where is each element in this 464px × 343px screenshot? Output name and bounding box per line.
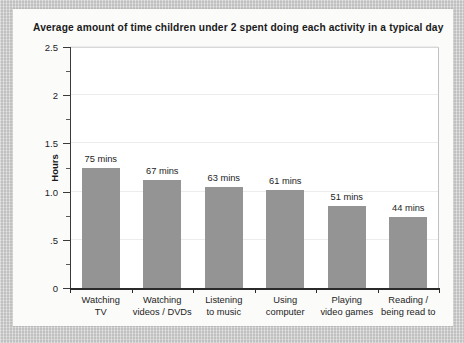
x-axis-category-label: Watchingvideos / DVDs [133, 295, 192, 318]
gridline [70, 239, 438, 240]
bar [266, 190, 304, 288]
gridline [70, 191, 438, 192]
y-axis-tick-label: 1.5 [45, 138, 58, 149]
x-axis-category-label: Usingcomputer [266, 295, 305, 318]
y-axis-tick-minor [66, 264, 70, 265]
x-axis-tick [316, 288, 317, 293]
bar [205, 187, 243, 288]
y-axis-tick-label: .5 [50, 234, 58, 245]
y-axis-tick-major [63, 240, 70, 241]
y-axis-tick-label: 2.5 [45, 42, 58, 53]
x-axis-category-label: WatchingTV [82, 295, 120, 318]
chart-plot-wrapper: Hours 0.51.01.522.5 WatchingTVWatchingvi… [57, 47, 439, 289]
x-axis-category-label: Playingvideo games [320, 295, 373, 318]
y-axis-tick-minor [66, 216, 70, 217]
y-axis-tick-major [63, 288, 70, 289]
bar-value-label: 67 mins [146, 166, 179, 176]
x-axis-tick [255, 288, 256, 293]
y-axis-tick-label: 2 [53, 90, 58, 101]
bar-value-label: 51 mins [330, 192, 363, 202]
bar [143, 180, 181, 288]
bar [82, 168, 120, 289]
y-axis-line [70, 47, 71, 288]
y-axis-title: Hours [49, 154, 60, 181]
chart-title: Average amount of time children under 2 … [33, 22, 437, 34]
y-axis-tick-major [63, 95, 70, 96]
bar-value-label: 63 mins [207, 173, 240, 183]
x-axis-tick [193, 288, 194, 293]
chart-figure-card: Average amount of time children under 2 … [13, 9, 453, 326]
page-background: Average amount of time children under 2 … [0, 0, 464, 343]
x-axis-tick [132, 288, 133, 293]
x-axis-category-label: Listeningto music [205, 295, 242, 318]
x-axis-tick [378, 288, 379, 293]
gridline [70, 94, 438, 95]
y-axis-tick-major [63, 192, 70, 193]
gridline [70, 142, 438, 143]
bar-value-label: 61 mins [269, 176, 302, 186]
plot-area [70, 47, 439, 288]
gridline [70, 46, 438, 47]
x-axis-category-label: Reading /being read to [381, 295, 435, 318]
y-axis-tick-minor [66, 71, 70, 72]
y-axis-tick-minor [66, 119, 70, 120]
bar-value-label: 44 mins [392, 203, 425, 213]
bar-value-label: 75 mins [84, 154, 117, 164]
bar [389, 217, 427, 288]
y-axis-tick-minor [66, 168, 70, 169]
y-axis-tick-major [63, 143, 70, 144]
y-axis-tick-label: 1.0 [45, 186, 58, 197]
x-axis-tick [439, 288, 440, 293]
y-axis-tick-label: 0 [53, 283, 58, 294]
x-axis-tick [70, 288, 71, 293]
y-axis-tick-major [63, 47, 70, 48]
bar [328, 206, 366, 288]
